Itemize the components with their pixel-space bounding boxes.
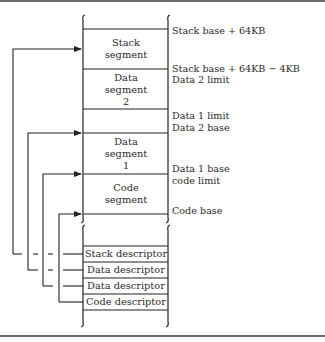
- label-code-base: Code base: [172, 205, 222, 216]
- segment-label-line: segment: [84, 194, 168, 206]
- label-stack-bottom: Stack base + 64KB − 4KB: [172, 63, 300, 74]
- segment-label-line: Data: [84, 72, 168, 84]
- segment-label-line: 2: [84, 96, 168, 108]
- label-data2-limit: Data 2 limit: [172, 74, 229, 85]
- segment-label-line: Code: [84, 182, 168, 194]
- label-data2-base: Data 2 base: [172, 122, 230, 133]
- segment-label-line: Stack: [84, 37, 168, 49]
- segment-label-line: segment: [84, 49, 168, 61]
- data-segment-2: Data segment 2: [84, 72, 168, 108]
- segment-label-line: segment: [84, 148, 168, 160]
- segment-label-line: 1: [84, 160, 168, 172]
- stack-segment: Stack segment: [84, 37, 168, 61]
- data2-pointer-arrow: [28, 133, 81, 270]
- segment-label-line: segment: [84, 84, 168, 96]
- stack-descriptor: Stack descriptor: [84, 246, 168, 262]
- label-stack-top: Stack base + 64KB: [172, 25, 265, 36]
- label-data1-limit: Data 1 limit: [172, 110, 229, 121]
- data-descriptor-1: Data descriptor: [84, 262, 168, 278]
- data1-pointer-arrow: [43, 174, 81, 286]
- label-code-limit: code limit: [172, 175, 220, 186]
- data-segment-1: Data segment 1: [84, 136, 168, 172]
- data-descriptor-2: Data descriptor: [84, 278, 168, 294]
- stack-pointer-arrow: [13, 49, 81, 254]
- segment-label-line: Data: [84, 136, 168, 148]
- code-descriptor: Code descriptor: [84, 294, 168, 310]
- label-data1-base: Data 1 base: [172, 163, 230, 174]
- code-segment: Code segment: [84, 182, 168, 206]
- code-pointer-arrow: [59, 214, 81, 302]
